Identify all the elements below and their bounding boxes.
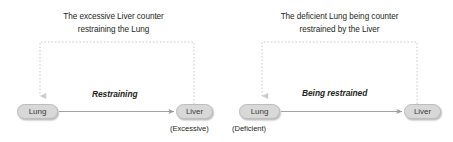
diagram-panel-deficient: The deficient Lung being counter restrai… (226, 0, 453, 142)
panel-connectors (0, 0, 227, 142)
edge-label-restraining: Restraining (92, 89, 138, 99)
node-liver-state-label: (Excessive) (170, 124, 209, 133)
node-liver: Liver (176, 104, 213, 119)
node-liver: Liver (404, 104, 441, 119)
node-lung-label: Lung (29, 108, 47, 116)
node-liver-label: Liver (186, 108, 203, 116)
figure-canvas: The excessive Liver counter restraining … (0, 0, 453, 142)
node-lung: Lung (17, 104, 58, 119)
node-lung: Lung (239, 104, 280, 119)
node-lung-label: Lung (251, 108, 269, 116)
node-lung-state-label: (Deficient) (232, 124, 266, 133)
panel-connectors (226, 0, 453, 142)
diagram-panel-excessive: The excessive Liver counter restraining … (0, 0, 227, 142)
edge-label-being-restrained: Being restrained (302, 88, 367, 98)
node-liver-label: Liver (414, 108, 431, 116)
